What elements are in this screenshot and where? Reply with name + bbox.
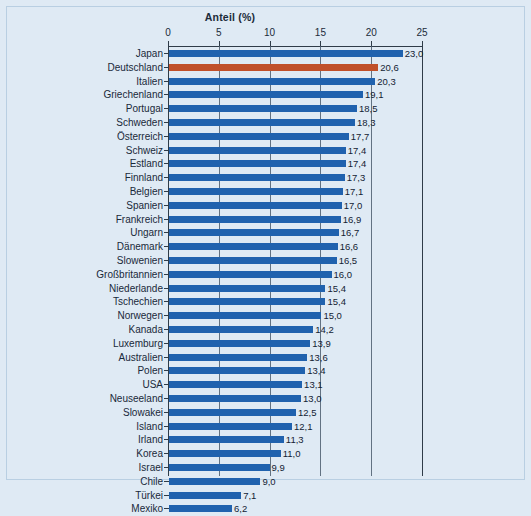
- bar: [169, 464, 270, 471]
- bar-value-label: 16,7: [341, 226, 360, 240]
- bar-row: Großbritannien16,0: [0, 268, 531, 282]
- bar: [169, 243, 338, 250]
- category-label: Slowakei: [123, 406, 163, 420]
- bar-row: USA13,1: [0, 378, 531, 392]
- bar-value-label: 19,1: [365, 88, 384, 102]
- category-label: Niederlande: [109, 282, 163, 296]
- bar-row: Kanada14,2: [0, 323, 531, 337]
- category-label: Norwegen: [117, 309, 163, 323]
- bar-value-label: 18,3: [357, 116, 376, 130]
- bar-value-label: 6,2: [234, 502, 247, 516]
- bar: [169, 174, 345, 181]
- bar: [169, 395, 301, 402]
- category-label: Tschechien: [113, 295, 163, 309]
- bar: [169, 312, 321, 319]
- category-label: Spanien: [126, 199, 163, 213]
- category-label: Portugal: [126, 102, 163, 116]
- bar-value-label: 13,9: [312, 337, 331, 351]
- bar-value-label: 13,6: [309, 351, 328, 365]
- bar-row: Schweden18,3: [0, 116, 531, 130]
- bar-value-label: 12,5: [298, 406, 317, 420]
- category-label: Island: [136, 420, 163, 434]
- category-label: Chile: [140, 475, 163, 489]
- bar: [169, 298, 325, 305]
- bar-row: Ungarn16,7: [0, 226, 531, 240]
- bar: [169, 340, 310, 347]
- x-tick-label: 15: [315, 27, 326, 38]
- bar: [169, 216, 341, 223]
- bar: [169, 229, 339, 236]
- category-label: Slowenien: [117, 254, 163, 268]
- category-label: Schweiz: [126, 144, 163, 158]
- bar-row: Slowakei12,5: [0, 406, 531, 420]
- bar: [169, 409, 296, 416]
- bar: [169, 133, 349, 140]
- category-label: Luxemburg: [113, 337, 163, 351]
- bar-value-label: 11,0: [283, 447, 301, 461]
- bar: [169, 64, 378, 71]
- bar-row: Estland17,4: [0, 157, 531, 171]
- bar: [169, 354, 307, 361]
- bar-value-label: 14,2: [315, 323, 334, 337]
- category-label: Finnland: [125, 171, 163, 185]
- bar: [169, 423, 292, 430]
- bar-row: Slowenien16,5: [0, 254, 531, 268]
- bar-row: Niederlande15,4: [0, 282, 531, 296]
- bar-row: Korea11,0: [0, 447, 531, 461]
- bar: [169, 285, 325, 292]
- bar-value-label: 15,4: [327, 295, 346, 309]
- x-tick-label: 0: [165, 27, 171, 38]
- chart-title: Anteil (%): [0, 11, 460, 23]
- bar: [169, 326, 313, 333]
- bar-row: Irland11,3: [0, 433, 531, 447]
- bar: [169, 160, 346, 167]
- bar-value-label: 9,9: [272, 461, 285, 475]
- bar-row: Israel9,9: [0, 461, 531, 475]
- bar-value-label: 16,9: [343, 213, 362, 227]
- bar-value-label: 17,7: [351, 130, 370, 144]
- bar: [169, 50, 403, 57]
- bar-value-label: 11,3: [286, 433, 304, 447]
- bar: [169, 367, 305, 374]
- bar-rows: Japan23,0Deutschland20,6Italien20,3Griec…: [0, 47, 531, 516]
- bar: [169, 505, 232, 512]
- bar-row: Frankreich16,9: [0, 213, 531, 227]
- bar-value-label: 17,4: [348, 144, 367, 158]
- bar-row: Island12,1: [0, 420, 531, 434]
- bar: [169, 202, 342, 209]
- bar: [169, 381, 302, 388]
- bar-row: Türkei7,1: [0, 489, 531, 503]
- bar: [169, 119, 355, 126]
- category-label: Großbritannien: [96, 268, 163, 282]
- category-label: Japan: [136, 47, 163, 61]
- category-label: Dänemark: [117, 240, 163, 254]
- bar-row: Japan23,0: [0, 47, 531, 61]
- bar-value-label: 7,1: [243, 489, 256, 503]
- bar-value-label: 20,6: [380, 61, 399, 75]
- bar-row: Norwegen15,0: [0, 309, 531, 323]
- bar-value-label: 17,3: [347, 171, 366, 185]
- bar-row: Polen13,4: [0, 364, 531, 378]
- chart-title-unit: (%): [238, 11, 255, 23]
- bar-row: Deutschland20,6: [0, 61, 531, 75]
- x-tick-label: 10: [264, 27, 275, 38]
- bar-row: Chile9,0: [0, 475, 531, 489]
- bar-value-label: 15,4: [327, 282, 346, 296]
- bar-value-label: 18,5: [359, 102, 378, 116]
- category-label: Ungarn: [130, 226, 163, 240]
- bar-row: Neuseeland13,0: [0, 392, 531, 406]
- category-label: Österreich: [117, 130, 163, 144]
- category-label: Türkei: [135, 489, 163, 503]
- bar-row: Italien20,3: [0, 75, 531, 89]
- bar-row: Tschechien15,4: [0, 295, 531, 309]
- x-tick-label: 25: [416, 27, 427, 38]
- bar-row: Australien13,6: [0, 351, 531, 365]
- bar-value-label: 13,1: [304, 378, 323, 392]
- category-label: Frankreich: [116, 213, 163, 227]
- bar-row: Spanien17,0: [0, 199, 531, 213]
- bar-value-label: 12,1: [294, 420, 313, 434]
- bar-value-label: 20,3: [377, 75, 396, 89]
- bar: [169, 436, 284, 443]
- bar: [169, 271, 332, 278]
